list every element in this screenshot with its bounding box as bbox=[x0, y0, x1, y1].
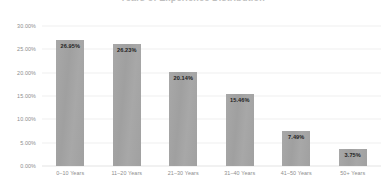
bar[interactable] bbox=[226, 94, 254, 166]
plot-area: 26.95%26.23%20.14%15.46%7.49%3.75% bbox=[42, 26, 381, 166]
y-axis: 30.00%25.00%20.00%15.00%10.00%5.00%0.00% bbox=[0, 0, 40, 192]
bar-group: 20.14% bbox=[169, 26, 197, 166]
y-axis-tick-label: 25.00% bbox=[0, 46, 36, 52]
bar-series: 26.95%26.23%20.14%15.46%7.49%3.75% bbox=[42, 26, 381, 166]
bar-value-label: 7.49% bbox=[282, 134, 310, 140]
x-axis-tick-label: 21–30 Years bbox=[155, 170, 212, 176]
bar[interactable] bbox=[56, 40, 84, 166]
x-axis-tick-label: 50+ Years bbox=[325, 170, 382, 176]
bar-value-label: 26.95% bbox=[56, 43, 84, 49]
x-axis-tick-label: 41–50 Years bbox=[268, 170, 325, 176]
bar-value-label: 26.23% bbox=[113, 47, 141, 53]
bar-group: 15.46% bbox=[226, 26, 254, 166]
y-axis-tick-label: 10.00% bbox=[0, 116, 36, 122]
x-axis-tick-label: 0–10 Years bbox=[42, 170, 99, 176]
x-axis-tick-label: 31–40 Years bbox=[212, 170, 269, 176]
bar[interactable] bbox=[113, 44, 141, 166]
x-axis: 0–10 Years11–20 Years21–30 Years31–40 Ye… bbox=[42, 170, 381, 184]
y-axis-tick-label: 15.00% bbox=[0, 93, 36, 99]
bar-value-label: 15.46% bbox=[226, 97, 254, 103]
x-axis-tick-label: 11–20 Years bbox=[99, 170, 156, 176]
bar-value-label: 3.75% bbox=[339, 152, 367, 158]
y-axis-tick-label: 20.00% bbox=[0, 70, 36, 76]
bar-value-label: 20.14% bbox=[169, 75, 197, 81]
bar[interactable] bbox=[169, 72, 197, 166]
bar-group: 26.23% bbox=[113, 26, 141, 166]
bar-group: 3.75% bbox=[339, 26, 367, 166]
bar-group: 26.95% bbox=[56, 26, 84, 166]
y-axis-tick-label: 5.00% bbox=[0, 140, 36, 146]
chart-title: Years of Experience Distribution bbox=[0, 0, 385, 5]
y-axis-tick-label: 30.00% bbox=[0, 23, 36, 29]
y-axis-tick-label: 0.00% bbox=[0, 163, 36, 169]
bar-group: 7.49% bbox=[282, 26, 310, 166]
bar-chart: Years of Experience Distribution 30.00%2… bbox=[0, 0, 385, 192]
